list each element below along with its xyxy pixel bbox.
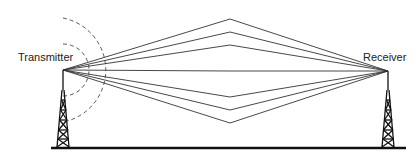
path-reflected-bottom-1 [63,70,388,97]
transmitter-tower-icon [57,70,69,147]
path-reflected-bottom-2 [63,70,388,110]
multipath-diagram: Transmitter Receiver [0,0,419,161]
path-reflected-top-3 [63,45,388,71]
receiver-tower-icon [382,71,394,147]
path-direct [63,70,388,71]
transmitter-label: Transmitter [18,51,73,63]
diagram-canvas [0,0,419,161]
path-reflected-top-2 [63,32,388,71]
receiver-label: Receiver [363,51,406,63]
signal-paths [63,19,388,123]
